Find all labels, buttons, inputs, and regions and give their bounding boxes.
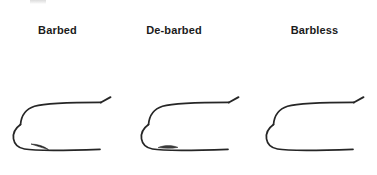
crushed-barb-stub [158, 146, 178, 149]
hook-comparison-figure: Barbed De-barbed Barbless [0, 0, 377, 175]
hook-shank [149, 102, 230, 124]
barb-spur [31, 144, 49, 150]
hook-label-barbed: Barbed [0, 23, 115, 37]
cropped-text-artifact [30, 0, 46, 4]
hook-bend-and-point [13, 125, 100, 151]
hook-illustration-barbless [253, 80, 377, 160]
de-barbed-hook-drawing [128, 80, 256, 160]
hook-eye-tip [229, 97, 239, 102]
hook-eye-tip [101, 97, 111, 102]
hook-label-barbless: Barbless [252, 23, 377, 37]
hook-eye-tip [354, 97, 364, 102]
hook-illustrations-row [0, 80, 377, 160]
hook-bend-and-point [141, 125, 228, 151]
barbless-hook-drawing [253, 80, 377, 160]
hook-illustration-de-barbed [128, 80, 256, 160]
hook-labels-row: Barbed De-barbed Barbless [0, 23, 377, 39]
hook-illustration-barbed [0, 80, 128, 160]
hook-shank [21, 102, 102, 124]
hook-shank [274, 102, 355, 124]
hook-label-de-barbed: De-barbed [112, 23, 236, 37]
hook-bend-and-point [266, 125, 353, 151]
barbed-hook-drawing [0, 80, 128, 160]
